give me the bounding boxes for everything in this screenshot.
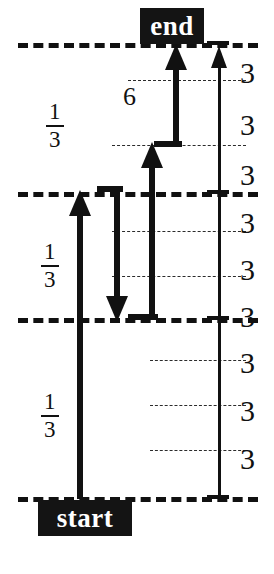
fraction-middle-denominator: 3	[41, 268, 59, 291]
arrow-start-to-mid-head	[69, 190, 91, 216]
ruler-label-4: 3	[240, 208, 255, 238]
ruler-label-2: 3	[240, 110, 255, 140]
ruler-axis	[218, 66, 221, 499]
ruler-tick-third-2	[207, 190, 229, 194]
ruler-tick-start	[207, 495, 229, 499]
arrow-mid-down-head	[106, 296, 128, 322]
fraction-middle: 1 3	[41, 240, 59, 291]
ruler-label-8: 3	[240, 396, 255, 426]
minor-line-6	[150, 405, 246, 406]
minor-line-3	[112, 231, 246, 232]
arrow-start-to-mid-stem	[77, 212, 83, 499]
arrow-minor-to-end-stem	[173, 66, 179, 144]
fraction-top: 1 3	[46, 100, 64, 151]
ruler-label-7: 3	[240, 348, 255, 378]
six-label: 6	[123, 84, 136, 110]
minor-line-1	[128, 80, 246, 81]
ruler-label-6: 3	[240, 302, 255, 332]
ruler-label-5: 3	[240, 255, 255, 285]
arrow-mid-down-stem	[114, 189, 120, 299]
fraction-middle-numerator: 1	[41, 240, 59, 263]
arrow-mid-to-minor-stem	[149, 165, 155, 317]
ruler-tick-third-1	[207, 316, 229, 320]
fraction-bottom-denominator: 3	[41, 418, 59, 441]
ruler-tick-end	[207, 41, 229, 45]
ruler-axis-arrowhead	[211, 46, 227, 68]
fraction-top-denominator: 3	[46, 128, 64, 151]
arrow-minor-to-end-head	[165, 44, 187, 70]
fraction-bottom: 1 3	[41, 390, 59, 441]
minor-line-4	[112, 276, 246, 277]
minor-line-7	[150, 450, 246, 451]
end-tag: end	[140, 8, 204, 44]
fraction-bottom-numerator: 1	[41, 390, 59, 413]
ruler-label-3: 3	[240, 160, 255, 190]
fraction-top-numerator: 1	[46, 100, 64, 123]
start-tag: start	[38, 500, 132, 536]
minor-line-5	[150, 360, 246, 361]
ruler-label-1: 3	[240, 58, 255, 88]
diagram-canvas: 3 3 3 3 3 3 3 3 3 6 1 3 1 3 1 3 end star…	[0, 0, 274, 574]
ruler-label-9: 3	[240, 444, 255, 474]
